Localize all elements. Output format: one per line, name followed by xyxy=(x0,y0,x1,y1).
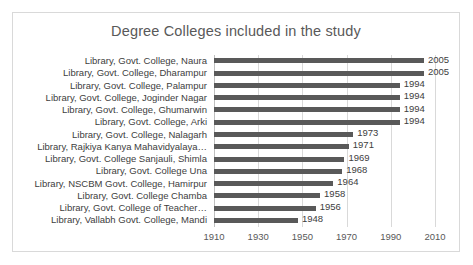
bar-row[interactable]: 1948 xyxy=(214,214,435,226)
chart-container: Degree Colleges included in the study Li… xyxy=(12,12,460,252)
bar-row[interactable]: 1994 xyxy=(214,80,435,92)
category-label: Library, Govt. College, Joginder Nagar xyxy=(15,92,211,104)
category-label: Library, Govt. College of Teacher… xyxy=(15,202,211,214)
bar-value-label: 1964 xyxy=(337,176,358,187)
bar[interactable] xyxy=(214,206,316,211)
bar-value-label: 1994 xyxy=(404,78,425,89)
bar-value-label: 1994 xyxy=(404,103,425,114)
bar-value-label: 1973 xyxy=(357,127,378,138)
category-label: Library, Govt. College Sanjauli, Shimla xyxy=(15,153,211,165)
category-label: Library, Govt. College, Palampur xyxy=(15,80,211,92)
bar[interactable] xyxy=(214,120,400,125)
bar-value-label: 1968 xyxy=(346,164,367,175)
bar-value-label: 1948 xyxy=(302,213,323,224)
category-label: Library, Rajkiya Kanya Mahavidyalaya… xyxy=(15,141,211,153)
bar[interactable] xyxy=(214,144,349,149)
category-label: Library, Govt. College, Arki xyxy=(15,116,211,128)
bar-value-label: 1956 xyxy=(320,201,341,212)
category-label: Library, Govt. College, Nalagarh xyxy=(15,129,211,141)
category-label: Library, Govt. College, Dharampur xyxy=(15,67,211,79)
bar-row[interactable]: 1994 xyxy=(214,104,435,116)
bar[interactable] xyxy=(214,181,333,186)
bar-row[interactable]: 1956 xyxy=(214,202,435,214)
bar-value-label: 1994 xyxy=(404,90,425,101)
value-axis-tick-labels: 191019301950197019902010 xyxy=(214,231,435,247)
bar[interactable] xyxy=(214,71,424,76)
x-tick-label-1970: 1970 xyxy=(336,231,357,242)
x-tick-label-1950: 1950 xyxy=(292,231,313,242)
bar-value-label: 1971 xyxy=(353,139,374,150)
bar-value-label: 1958 xyxy=(324,188,345,199)
bar-series: 2005200519941994199419941973197119691968… xyxy=(214,55,435,227)
bar[interactable] xyxy=(214,132,353,137)
bar[interactable] xyxy=(214,218,298,223)
x-tick-label-1910: 1910 xyxy=(203,231,224,242)
x-tick-label-1990: 1990 xyxy=(380,231,401,242)
bar[interactable] xyxy=(214,95,400,100)
category-label: Library, NSCBM Govt. College, Hamirpur xyxy=(15,178,211,190)
bar-row[interactable]: 1971 xyxy=(214,141,435,153)
category-label: Library, Govt. College, Naura xyxy=(15,55,211,67)
bar-row[interactable]: 1968 xyxy=(214,165,435,177)
category-label: Library, Govt. College Una xyxy=(15,165,211,177)
category-label: Library, Vallabh Govt. College, Mandi xyxy=(15,214,211,226)
bar-row[interactable]: 1994 xyxy=(214,92,435,104)
bar[interactable] xyxy=(214,83,400,88)
bar[interactable] xyxy=(214,58,424,63)
bar-row[interactable]: 2005 xyxy=(214,67,435,79)
bar[interactable] xyxy=(214,157,344,162)
x-tick-label-1930: 1930 xyxy=(248,231,269,242)
bar[interactable] xyxy=(214,193,320,198)
bar-row[interactable]: 2005 xyxy=(214,55,435,67)
bar[interactable] xyxy=(214,107,400,112)
bar-value-label: 1994 xyxy=(404,115,425,126)
bar-value-label: 2005 xyxy=(428,66,449,77)
category-label: Library, Govt. College, Ghumarwin xyxy=(15,104,211,116)
x-tick-label-2010: 2010 xyxy=(424,231,445,242)
bar-value-label: 1969 xyxy=(348,152,369,163)
bar-row[interactable]: 1969 xyxy=(214,153,435,165)
gridline-2010 xyxy=(435,55,436,227)
bar-row[interactable]: 1973 xyxy=(214,129,435,141)
bar[interactable] xyxy=(214,169,342,174)
category-axis-labels: Library, Govt. College, NauraLibrary, Go… xyxy=(15,55,211,227)
category-label: Library, Govt. College Chamba xyxy=(15,190,211,202)
bar-value-label: 2005 xyxy=(428,54,449,65)
plot-area: 2005200519941994199419941973197119691968… xyxy=(214,55,435,227)
chart-title: Degree Colleges included in the study xyxy=(13,23,459,39)
bar-row[interactable]: 1994 xyxy=(214,116,435,128)
